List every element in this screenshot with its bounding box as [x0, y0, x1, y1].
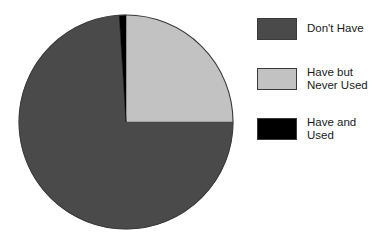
legend-swatch-have-but-never-used	[257, 68, 297, 90]
legend-label-have-and-used: Have and Used	[307, 116, 356, 142]
legend-swatch-have-and-used	[257, 118, 297, 140]
legend-item-dont-have[interactable]: Don't Have	[257, 16, 390, 66]
legend-item-have-but-never-used[interactable]: Have but Never Used	[257, 66, 390, 116]
pie-slice-group	[19, 15, 233, 229]
legend-label-have-but-never-used: Have but Never Used	[307, 66, 368, 92]
chart-legend: Don't Have Have but Never Used Have and …	[257, 16, 390, 166]
legend-label-dont-have: Don't Have	[307, 22, 364, 35]
legend-item-have-and-used[interactable]: Have and Used	[257, 116, 390, 166]
pie-chart-figure: Don't Have Have but Never Used Have and …	[0, 0, 390, 239]
pie-chart-plot-area	[0, 0, 245, 239]
legend-swatch-dont-have	[257, 18, 297, 40]
pie-slice[interactable]	[126, 15, 233, 122]
pie-chart-svg	[0, 0, 245, 239]
